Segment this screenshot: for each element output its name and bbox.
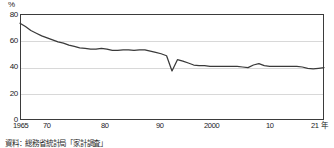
chart-figure: % 80 60 40 20 0 1965 70 80 90 2000 10 21… bbox=[0, 0, 334, 148]
x-axis-tick-1965: 1965 bbox=[13, 122, 29, 130]
x-axis-tick-10: 10 bbox=[266, 122, 274, 130]
y-axis-tick-40: 40 bbox=[1, 63, 18, 71]
y-axis-tick-20: 20 bbox=[1, 90, 18, 98]
y-axis-tick-80: 80 bbox=[1, 11, 18, 19]
y-axis-tick-60: 60 bbox=[1, 37, 18, 45]
x-axis-tick-70: 70 bbox=[43, 122, 51, 130]
data-series-line bbox=[20, 23, 324, 71]
x-axis-tick-21: 21 年 bbox=[311, 122, 327, 130]
y-axis-unit-label: % bbox=[8, 0, 15, 9]
series-line-layer bbox=[20, 14, 324, 120]
x-axis-tick-2000: 2000 bbox=[204, 122, 220, 130]
x-axis-tick-90: 90 bbox=[156, 122, 164, 130]
source-note: 資料：総務省統計局「家計調査」 bbox=[5, 139, 334, 148]
x-axis-tick-80: 80 bbox=[101, 122, 109, 130]
